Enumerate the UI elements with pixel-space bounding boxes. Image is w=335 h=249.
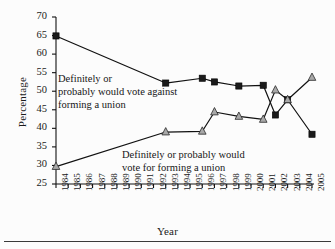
x-tick-label: 1994 (182, 173, 192, 191)
x-tick-label: 2005 (316, 173, 326, 191)
y-tick-label: 30 (21, 158, 47, 169)
line-chart-plot (0, 0, 335, 249)
data-point-square (53, 33, 59, 39)
chart-figure: 25303540455055606570 1984198519861987198… (0, 0, 335, 249)
x-tick-label: 2000 (255, 173, 265, 191)
x-tick-label: 2004 (304, 173, 314, 191)
annotation-line: Definitely or (58, 72, 177, 85)
x-tick-label: 1987 (97, 173, 107, 191)
footer-divider (4, 241, 331, 242)
x-tick-label: 1995 (194, 173, 204, 191)
x-tick-label: 1989 (121, 173, 131, 191)
annotation-line: probably would vote against (58, 85, 177, 98)
x-tick-label: 1985 (72, 173, 82, 191)
x-tick-label: 1986 (84, 173, 94, 191)
x-tick-label: 1992 (158, 173, 168, 191)
y-tick-label: 65 (21, 29, 47, 40)
x-tick-label: 1984 (60, 173, 70, 191)
annotation-vote-for: Definitely or probably wouldvote for for… (122, 148, 245, 174)
data-point-triangle (308, 73, 316, 80)
data-point-triangle (272, 86, 280, 93)
x-tick-label: 1990 (133, 173, 143, 191)
x-tick-label: 1997 (218, 173, 228, 191)
x-tick-label: 2002 (279, 173, 289, 191)
x-tick-label: 2003 (292, 173, 302, 191)
x-axis-title: Year (0, 225, 335, 237)
annotation-line: Definitely or probably would (122, 148, 245, 161)
annotation-vote-against: Definitely orprobably would vote against… (58, 72, 177, 111)
data-point-square (236, 83, 242, 89)
x-tick-label: 1991 (145, 173, 155, 191)
data-point-square (309, 131, 315, 137)
x-tick-label: 1988 (109, 173, 119, 191)
annotation-line: forming a union (58, 98, 177, 111)
x-tick-label: 1998 (231, 173, 241, 191)
x-tick-label: 1996 (206, 173, 216, 191)
x-tick-label: 1999 (243, 173, 253, 191)
x-tick-label: 1993 (170, 173, 180, 191)
data-point-square (260, 82, 266, 88)
data-point-square (199, 75, 205, 81)
x-tick-label: 2001 (267, 173, 277, 191)
data-point-square (272, 112, 278, 118)
y-axis-title: Percentage (16, 47, 28, 157)
y-tick-label: 70 (21, 10, 47, 21)
y-tick-label: 25 (21, 177, 47, 188)
annotation-line: vote for forming a union (122, 161, 245, 174)
data-point-triangle (162, 128, 170, 135)
data-point-square (211, 79, 217, 85)
data-point-triangle (211, 108, 219, 115)
